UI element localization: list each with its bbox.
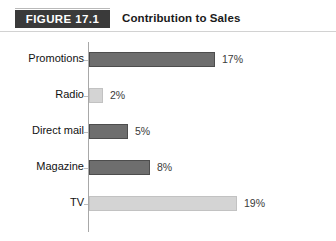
bar-promotions bbox=[89, 52, 215, 67]
header-divider bbox=[0, 31, 336, 32]
bar-row-promotions: Promotions 17% bbox=[0, 42, 336, 78]
category-label-direct-mail: Direct mail bbox=[0, 124, 84, 136]
category-label-tv: TV bbox=[0, 196, 84, 208]
bar-magazine bbox=[89, 160, 150, 175]
figure-title: Contribution to Sales bbox=[122, 12, 240, 24]
category-label-radio: Radio bbox=[0, 88, 84, 100]
bar-tv bbox=[89, 196, 237, 211]
bar-row-magazine: Magazine 8% bbox=[0, 150, 336, 186]
figure-number-badge: FIGURE 17.1 bbox=[15, 10, 110, 28]
figure-header: FIGURE 17.1 Contribution to Sales bbox=[0, 0, 336, 33]
category-label-magazine: Magazine bbox=[0, 160, 84, 172]
value-label-radio: 2% bbox=[110, 89, 125, 101]
value-label-promotions: 17% bbox=[222, 53, 243, 65]
bar-row-radio: Radio 2% bbox=[0, 78, 336, 114]
figure-number-label: FIGURE 17.1 bbox=[15, 10, 110, 28]
value-label-direct-mail: 5% bbox=[135, 125, 150, 137]
value-label-magazine: 8% bbox=[157, 161, 172, 173]
badge-top-rule bbox=[15, 8, 110, 9]
bar-row-tv: TV 19% bbox=[0, 186, 336, 222]
category-label-promotions: Promotions bbox=[0, 52, 84, 64]
value-label-tv: 19% bbox=[244, 197, 265, 209]
bar-chart: Promotions 17% Radio 2% Direct mail 5% M… bbox=[0, 33, 336, 241]
bar-direct-mail bbox=[89, 124, 128, 139]
bar-row-direct-mail: Direct mail 5% bbox=[0, 114, 336, 150]
bar-radio bbox=[89, 88, 103, 103]
